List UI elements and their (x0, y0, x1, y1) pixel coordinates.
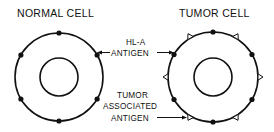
hla-label-line-1: HL-A (126, 38, 146, 47)
tumor-cell (163, 29, 263, 124)
hla-antigen-marker (95, 96, 100, 101)
normal-cell-membrane (15, 33, 103, 121)
hla-antigen-marker (249, 52, 254, 57)
normal-cell (15, 30, 103, 123)
tumor-antigen-marker (258, 74, 263, 80)
tumor-antigen-label-line-2: ASSOCIATED (103, 102, 157, 111)
tumor-antigen-label-line-1: TUMOR (117, 91, 148, 100)
hla-antigen-marker (210, 29, 215, 34)
hla-antigen-marker (171, 97, 176, 102)
hla-antigen-marker (56, 118, 61, 123)
tumor-cell-membrane (168, 32, 258, 122)
normal-cell-title: NORMAL CELL (17, 7, 94, 19)
hla-antigen-marker (18, 96, 23, 101)
normal-cell-nucleus (40, 58, 78, 96)
tumor-antigen-label-line-3: ANTIGEN (111, 114, 149, 123)
tumor-antigen-marker (163, 74, 168, 80)
hla-antigen-label: HL-A ANTIGEN (97, 38, 174, 58)
cell-antigen-diagram: NORMAL CELL TUMOR CELL HL-A ANTIGEN TUMO… (0, 0, 274, 132)
tumor-cell-nucleus (194, 58, 232, 96)
hla-antigen-marker (210, 119, 215, 124)
tumor-antigen-label: TUMOR ASSOCIATED ANTIGEN (103, 91, 187, 123)
hla-antigen-marker (18, 52, 23, 57)
tumor-cell-title: TUMOR CELL (179, 7, 250, 19)
tumor-antigen-arrow-head (182, 116, 187, 120)
hla-label-line-2: ANTIGEN (111, 49, 149, 58)
hla-antigen-marker (56, 30, 61, 35)
hla-antigen-marker (249, 97, 254, 102)
